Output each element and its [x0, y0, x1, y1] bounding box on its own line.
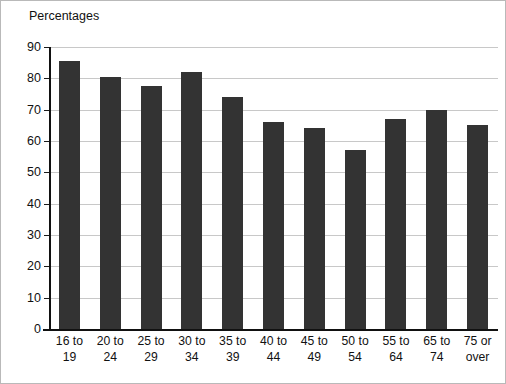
x-axis-label: 45 to49	[294, 333, 335, 365]
bar	[385, 119, 406, 329]
x-axis-label: 50 to54	[335, 333, 376, 365]
x-axis-label-line: 74	[416, 349, 457, 365]
x-axis-label-line: 24	[90, 349, 131, 365]
bar	[426, 110, 447, 329]
y-tick-label-10: 10	[27, 291, 41, 304]
bar	[222, 97, 243, 329]
bar	[181, 72, 202, 329]
x-axis-label-line: 64	[375, 349, 416, 365]
y-tick-label-90: 90	[27, 41, 41, 54]
x-axis-label: 20 to24	[90, 333, 131, 365]
bar-chart-figure: Percentages 9080706050403020100 16 to192…	[0, 0, 506, 384]
x-axis-label-line: 75 or	[457, 333, 498, 349]
x-axis-label: 25 to29	[131, 333, 172, 365]
bar	[345, 150, 366, 329]
x-axis-label: 35 to39	[212, 333, 253, 365]
y-tick-label-20: 20	[27, 260, 41, 273]
y-tick-label-60: 60	[27, 135, 41, 148]
x-axis-label-line: 19	[49, 349, 90, 365]
x-axis-label-line: 49	[294, 349, 335, 365]
x-axis-label-line: 45 to	[294, 333, 335, 349]
x-axis-label-line: 20 to	[90, 333, 131, 349]
bars-layer	[49, 47, 498, 329]
x-axis-category-labels: 16 to1920 to2425 to2930 to3435 to3940 to…	[49, 333, 498, 377]
x-axis-label-line: 16 to	[49, 333, 90, 349]
x-axis-label-line: 50 to	[335, 333, 376, 349]
x-axis-label-line: 34	[171, 349, 212, 365]
x-axis-label-line: over	[457, 349, 498, 365]
x-axis-label-line: 29	[131, 349, 172, 365]
x-axis-label-line: 40 to	[253, 333, 294, 349]
y-axis-title: Percentages	[29, 9, 99, 23]
x-axis-label-line: 54	[335, 349, 376, 365]
x-axis-label-line: 35 to	[212, 333, 253, 349]
x-axis-label: 55 to64	[375, 333, 416, 365]
x-axis-label-line: 39	[212, 349, 253, 365]
bar	[304, 128, 325, 329]
bar	[467, 125, 488, 329]
x-axis-label-line: 25 to	[131, 333, 172, 349]
x-axis-label-line: 65 to	[416, 333, 457, 349]
x-axis-label-line: 30 to	[171, 333, 212, 349]
x-axis-label: 65 to74	[416, 333, 457, 365]
y-tick-label-0: 0	[34, 323, 41, 336]
bar	[141, 86, 162, 329]
x-axis-label: 16 to19	[49, 333, 90, 365]
y-tick-label-80: 80	[27, 72, 41, 85]
y-tick-label-40: 40	[27, 197, 41, 210]
x-axis-label-line: 44	[253, 349, 294, 365]
x-axis-label: 30 to34	[171, 333, 212, 365]
plot-area: 9080706050403020100	[49, 47, 498, 329]
x-axis-line	[43, 329, 498, 331]
bar	[100, 77, 121, 329]
x-axis-label-line: 55 to	[375, 333, 416, 349]
bar	[59, 61, 80, 329]
x-axis-label: 40 to44	[253, 333, 294, 365]
y-tick-label-50: 50	[27, 166, 41, 179]
y-tick-label-70: 70	[27, 103, 41, 116]
bar	[263, 122, 284, 329]
x-axis-label: 75 orover	[457, 333, 498, 365]
y-tick-label-30: 30	[27, 229, 41, 242]
